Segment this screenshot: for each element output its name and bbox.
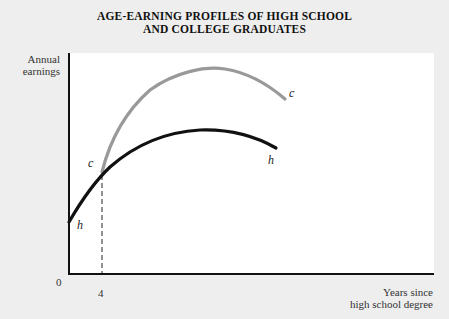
chart-svg: h h c c [0,0,449,319]
chart-canvas: AGE-EARNING PROFILES OF HIGH SCHOOL AND … [0,0,449,319]
c-start-label: c [88,156,94,170]
h-start-label: h [77,218,83,232]
high-school-curve-h [69,130,276,222]
college-curve-c [102,68,285,172]
c-end-label: c [289,86,295,100]
h-end-label: h [268,153,274,167]
